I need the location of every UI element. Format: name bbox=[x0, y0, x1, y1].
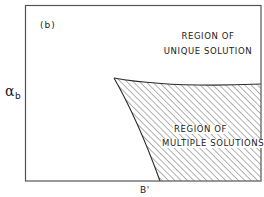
unique-region-label-line2: UNIQUE SOLUTION bbox=[148, 47, 264, 56]
x-axis-label: B' bbox=[140, 186, 150, 195]
multiple-region-label-line2: MULTIPLE SOLUTIONS bbox=[161, 139, 264, 148]
multiple-region-label-line1: REGION OF bbox=[173, 125, 228, 134]
unique-region-label-line1: REGION OF bbox=[163, 32, 253, 41]
y-axis-subscript: b bbox=[15, 91, 21, 101]
y-axis-symbol: α bbox=[5, 83, 15, 99]
panel-label: (b) bbox=[40, 21, 56, 30]
y-axis-label: αb bbox=[5, 84, 21, 101]
